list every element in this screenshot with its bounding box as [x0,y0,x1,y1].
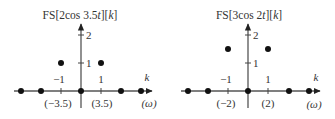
omega-axis-label: (ω) [306,98,321,111]
x-tick-label: 1 [265,73,271,85]
omega-tick-label: (3.5) [91,97,112,110]
spectrum-figure: FS[2cos 3.5t][k] 1 2 −1 1 (−3.5) (3.5) k… [0,0,335,119]
omega-tick-label: (−2) [216,97,235,110]
panel-title: FS[2cos 3.5t][k] [43,9,118,21]
omega-axis-label: (ω) [141,97,156,110]
k-axis-label: k [145,71,151,83]
x-tick-label: −1 [53,73,65,85]
k-axis-label: k [314,71,320,83]
omega-tick-label: (−3.5) [44,97,72,110]
panel-title: FS[3cos 2t][k] [216,9,282,21]
y-tick-label: 2 [86,29,92,41]
y-tick-label: 1 [253,57,259,69]
x-tick-label: −1 [220,73,232,85]
panel-left: FS[2cos 3.5t][k] 1 2 −1 1 (−3.5) (3.5) k… [14,9,157,110]
y-tick-label: 2 [253,29,259,41]
x-tick-label: 1 [98,73,104,85]
panel-right: FS[3cos 2t][k] 1 2 −1 1 (−2) (2) k (ω) [181,9,322,111]
y-tick-label: 1 [86,57,92,69]
omega-tick-label: (2) [262,97,275,110]
